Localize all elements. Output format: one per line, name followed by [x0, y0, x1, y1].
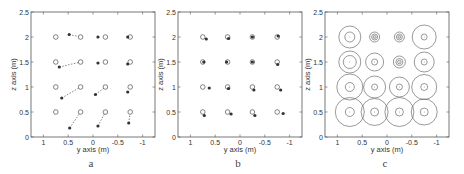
figure: 10.50-0.5-100.511.522.5y axis (m)z axis …	[0, 0, 464, 174]
estimated-point	[127, 121, 130, 124]
estimated-point	[126, 90, 129, 93]
x-tick-label: -1	[433, 139, 439, 146]
reference-point	[54, 110, 59, 115]
center-dot	[424, 62, 425, 63]
y-tick-label: 2	[319, 34, 323, 41]
estimated-point	[96, 61, 99, 64]
panel-caption: b	[235, 157, 241, 169]
panel-b: 10.50-0.5-100.511.522.5y axis (m)z axis …	[156, 9, 302, 170]
reference-point	[128, 110, 133, 115]
reference-point	[78, 110, 83, 115]
estimated-point	[60, 96, 63, 99]
x-tick-label: 0.5	[357, 139, 367, 146]
center-dot	[374, 112, 375, 113]
center-dot	[374, 37, 375, 38]
reference-point	[78, 85, 83, 90]
y-axis-label: z axis (m)	[9, 58, 18, 91]
y-tick-label: 2	[25, 34, 29, 41]
x-tick-label: 0.5	[210, 139, 220, 146]
panel-caption: a	[89, 157, 94, 169]
y-tick-label: 1	[319, 84, 323, 91]
x-tick-label: -0.5	[259, 139, 271, 146]
estimated-point	[68, 33, 71, 36]
center-dot	[374, 87, 375, 88]
reference-point	[54, 35, 59, 40]
y-tick-label: 0.5	[19, 109, 29, 116]
reference-point	[250, 110, 255, 115]
reference-point	[201, 85, 206, 90]
y-tick-label: 1.5	[19, 59, 29, 66]
y-tick-label: 0	[172, 134, 176, 141]
center-dot	[374, 62, 375, 63]
estimated-point	[126, 35, 129, 38]
x-tick-label: 1	[188, 139, 192, 146]
estimated-point	[277, 34, 280, 37]
x-axis-label: y axis (m)	[224, 145, 257, 154]
center-dot	[424, 37, 425, 38]
estimated-point	[96, 124, 99, 127]
estimated-point	[279, 88, 282, 91]
y-tick-label: 2.5	[19, 9, 29, 16]
reference-point	[128, 85, 133, 90]
x-tick-label: -0.5	[406, 139, 418, 146]
error-link	[70, 112, 81, 128]
center-dot	[424, 87, 425, 88]
reference-point	[103, 85, 108, 90]
reference-point	[201, 110, 206, 115]
x-tick-label: 1	[41, 139, 45, 146]
x-tick-label: 0.5	[63, 139, 73, 146]
panel-caption: c	[383, 157, 388, 169]
y-tick-label: 0	[319, 134, 323, 141]
estimated-point	[227, 87, 230, 90]
estimated-point	[229, 112, 232, 115]
estimated-point	[126, 62, 129, 65]
error-link	[59, 62, 80, 67]
reference-point	[201, 35, 206, 40]
error-link	[62, 87, 81, 98]
center-dot	[399, 62, 400, 63]
reference-point	[275, 110, 280, 115]
center-dot	[399, 37, 400, 38]
panel-a: 10.50-0.5-100.511.522.5y axis (m)z axis …	[9, 9, 155, 170]
estimated-point	[252, 88, 255, 91]
reference-point	[54, 85, 59, 90]
estimated-point	[276, 63, 279, 66]
center-dot	[349, 87, 350, 88]
x-axis-label: y axis (m)	[371, 145, 404, 154]
estimated-point	[251, 35, 254, 38]
estimated-point	[251, 60, 254, 63]
estimated-point	[205, 37, 208, 40]
y-tick-label: 2	[172, 34, 176, 41]
estimated-point	[282, 112, 285, 115]
x-axis-label: y axis (m)	[77, 145, 110, 154]
y-tick-label: 0.5	[313, 109, 323, 116]
estimated-point	[253, 114, 256, 117]
estimated-point	[225, 60, 228, 63]
y-tick-label: 0.5	[166, 109, 176, 116]
center-dot	[399, 112, 400, 113]
y-axis-label: z axis (m)	[303, 58, 312, 91]
axes-frame	[31, 12, 155, 137]
axes-frame	[178, 12, 302, 137]
y-axis-label: z axis (m)	[156, 58, 165, 91]
reference-point	[103, 35, 108, 40]
y-tick-label: 1.5	[166, 59, 176, 66]
reference-point	[78, 60, 83, 65]
reference-point	[78, 35, 83, 40]
y-tick-label: 1	[172, 84, 176, 91]
estimated-point	[96, 35, 99, 38]
y-tick-label: 1	[25, 84, 29, 91]
estimated-point	[94, 93, 97, 96]
reference-point	[103, 110, 108, 115]
y-tick-label: 0	[25, 134, 29, 141]
estimated-point	[202, 60, 205, 63]
x-tick-label: -0.5	[112, 139, 124, 146]
x-tick-label: -1	[286, 139, 292, 146]
estimated-point	[208, 86, 211, 89]
center-dot	[349, 37, 350, 38]
estimated-point	[227, 37, 230, 40]
estimated-point	[68, 126, 71, 129]
y-tick-label: 2.5	[313, 9, 323, 16]
x-tick-label: 1	[335, 139, 339, 146]
center-dot	[399, 87, 400, 88]
